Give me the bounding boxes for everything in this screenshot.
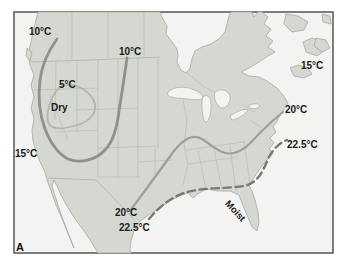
isotherm-map-figure: 10°C 10°C 5°C Dry 15°C 15°C 20°C 22.5°C …	[0, 0, 344, 274]
isotherm-label-20c-mid-atlantic: 20°C	[285, 104, 307, 115]
isotherm-label-22-5c-atlantic: 22.5°C	[287, 139, 318, 150]
isotherm-label-22-5c-gulf: 22.5°C	[119, 222, 150, 233]
isotherm-label-15c-atlantic: 15°C	[301, 60, 323, 71]
map-canvas: 10°C 10°C 5°C Dry 15°C 15°C 20°C 22.5°C …	[0, 0, 344, 274]
panel-label: A	[16, 241, 24, 253]
annotation-dry: Dry	[51, 102, 68, 113]
isotherm-label-10c-northwest: 10°C	[29, 26, 51, 37]
isotherm-label-5c: 5°C	[59, 79, 76, 90]
isotherm-label-10c-central: 10°C	[119, 46, 141, 57]
isotherm-label-15c-pacific: 15°C	[15, 148, 37, 159]
isotherm-label-20c-texas: 20°C	[115, 207, 137, 218]
